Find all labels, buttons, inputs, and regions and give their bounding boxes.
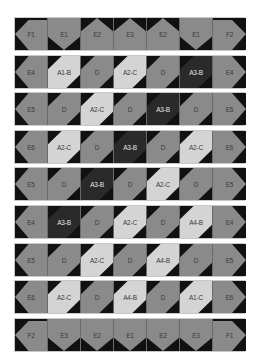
block-cell: E1 bbox=[114, 319, 147, 351]
block-shape-icon bbox=[48, 93, 80, 125]
block-cell: E5 bbox=[15, 93, 48, 125]
block-cell: F1 bbox=[15, 18, 48, 50]
block-shape-icon bbox=[147, 319, 179, 351]
block-cell: E1 bbox=[48, 18, 81, 50]
block-cell: E6 bbox=[15, 131, 48, 163]
block-cell: A3-B bbox=[81, 168, 114, 200]
block-cell: E5 bbox=[15, 168, 48, 200]
block-shape-icon bbox=[15, 56, 47, 88]
block-cell: E1 bbox=[180, 18, 213, 50]
block-shape-icon bbox=[213, 244, 246, 276]
block-cell: E5 bbox=[15, 244, 48, 276]
block-shape-icon bbox=[48, 56, 80, 88]
block-cell: E4 bbox=[15, 206, 48, 238]
block-shape-icon bbox=[81, 18, 113, 50]
block-shape-icon bbox=[15, 131, 47, 163]
block-cell: A2-C bbox=[147, 168, 180, 200]
block-cell: E4 bbox=[213, 206, 246, 238]
block-cell: E2 bbox=[81, 18, 114, 50]
block-row: E5DA2-CDA3-BDE5 bbox=[14, 92, 245, 126]
block-shape-icon bbox=[81, 56, 113, 88]
block-cell: D bbox=[147, 131, 180, 163]
block-shape-icon bbox=[81, 281, 113, 313]
block-cell: F2 bbox=[15, 319, 48, 351]
block-cell: D bbox=[48, 168, 81, 200]
block-shape-icon bbox=[15, 168, 47, 200]
block-cell: E2 bbox=[147, 319, 180, 351]
block-shape-icon bbox=[48, 281, 80, 313]
block-cell: E3 bbox=[180, 319, 213, 351]
block-shape-icon bbox=[213, 319, 246, 351]
block-row: E4A1-BDA2-CDA3-BE4 bbox=[14, 55, 245, 89]
quilt-block-grid: F1E1E2E3E2E1F2E4A1-BDA2-CDA3-BE4E5DA2-CD… bbox=[14, 17, 245, 355]
block-shape-icon bbox=[180, 168, 212, 200]
block-shape-icon bbox=[213, 206, 246, 238]
block-cell: A2-C bbox=[48, 281, 81, 313]
block-shape-icon bbox=[81, 168, 113, 200]
block-shape-icon bbox=[147, 168, 179, 200]
block-cell: D bbox=[114, 93, 147, 125]
block-cell: F1 bbox=[213, 319, 246, 351]
block-row: F2E3E2E1E2E3F1 bbox=[14, 318, 245, 352]
block-cell: D bbox=[180, 93, 213, 125]
block-row: E6A2-CDA4-BDA1-CE6 bbox=[14, 280, 245, 314]
block-cell: D bbox=[147, 56, 180, 88]
block-shape-icon bbox=[48, 244, 80, 276]
block-shape-icon bbox=[48, 206, 80, 238]
block-row: E4A3-BDA2-CDA4-BE4 bbox=[14, 205, 245, 239]
block-shape-icon bbox=[147, 93, 179, 125]
block-cell: E4 bbox=[15, 56, 48, 88]
block-cell: E6 bbox=[15, 281, 48, 313]
block-shape-icon bbox=[48, 18, 80, 50]
block-row: F1E1E2E3E2E1F2 bbox=[14, 17, 245, 51]
block-cell: A2-C bbox=[180, 131, 213, 163]
block-cell: A2-C bbox=[81, 93, 114, 125]
block-shape-icon bbox=[15, 244, 47, 276]
block-shape-icon bbox=[114, 56, 146, 88]
block-shape-icon bbox=[81, 244, 113, 276]
block-shape-icon bbox=[48, 131, 80, 163]
block-shape-icon bbox=[213, 93, 246, 125]
block-shape-icon bbox=[147, 206, 179, 238]
block-cell: E3 bbox=[114, 18, 147, 50]
block-shape-icon bbox=[147, 56, 179, 88]
block-shape-icon bbox=[114, 281, 146, 313]
block-cell: F2 bbox=[213, 18, 246, 50]
block-cell: E5 bbox=[213, 168, 246, 200]
block-shape-icon bbox=[81, 319, 113, 351]
block-cell: A4-B bbox=[180, 206, 213, 238]
block-shape-icon bbox=[180, 319, 212, 351]
block-cell: D bbox=[180, 244, 213, 276]
block-shape-icon bbox=[114, 131, 146, 163]
block-cell: D bbox=[81, 281, 114, 313]
block-cell: A1-B bbox=[48, 56, 81, 88]
block-shape-icon bbox=[213, 168, 246, 200]
block-shape-icon bbox=[180, 56, 212, 88]
block-shape-icon bbox=[213, 281, 246, 313]
block-shape-icon bbox=[114, 18, 146, 50]
block-cell: A2-C bbox=[81, 244, 114, 276]
block-cell: A3-B bbox=[147, 93, 180, 125]
block-cell: E6 bbox=[213, 281, 246, 313]
block-shape-icon bbox=[213, 18, 246, 50]
block-cell: A4-B bbox=[114, 281, 147, 313]
block-shape-icon bbox=[114, 319, 146, 351]
block-cell: A1-C bbox=[180, 281, 213, 313]
block-shape-icon bbox=[114, 244, 146, 276]
block-shape-icon bbox=[114, 206, 146, 238]
block-shape-icon bbox=[180, 206, 212, 238]
block-cell: E2 bbox=[81, 319, 114, 351]
block-shape-icon bbox=[15, 18, 47, 50]
block-cell: E4 bbox=[213, 56, 246, 88]
block-cell: D bbox=[147, 281, 180, 313]
block-shape-icon bbox=[147, 281, 179, 313]
block-cell: D bbox=[114, 244, 147, 276]
block-shape-icon bbox=[48, 168, 80, 200]
block-cell: E3 bbox=[48, 319, 81, 351]
block-cell: D bbox=[48, 244, 81, 276]
block-shape-icon bbox=[180, 131, 212, 163]
block-shape-icon bbox=[15, 319, 47, 351]
block-cell: A3-B bbox=[48, 206, 81, 238]
block-shape-icon bbox=[15, 93, 47, 125]
block-shape-icon bbox=[147, 131, 179, 163]
